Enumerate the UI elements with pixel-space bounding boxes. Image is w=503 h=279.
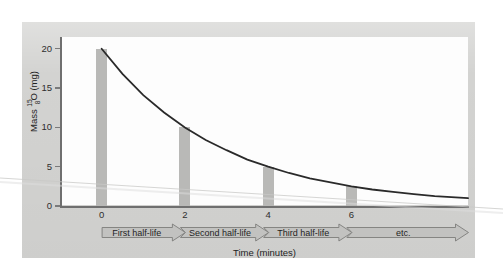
half-life-arrow-label: Second half-life	[185, 222, 255, 244]
half-life-arrow-label: First half-life	[102, 222, 172, 244]
half-life-arrow-label: etc.	[351, 222, 455, 244]
half-life-arrow-label: Third half-life	[268, 222, 338, 244]
half-life-decay-figure: 20151050 0246 Mass 158O (mg) Time (minut…	[0, 0, 503, 279]
half-life-arrow-labels: First half-lifeSecond half-lifeThird hal…	[62, 222, 462, 244]
